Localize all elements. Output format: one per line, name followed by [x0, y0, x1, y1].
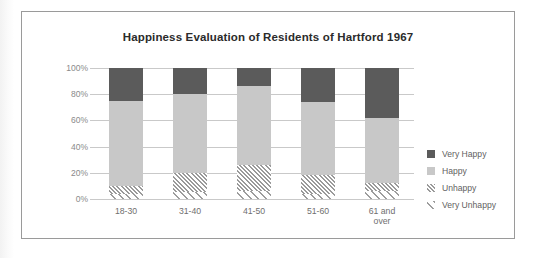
bar-segment-very-happy — [109, 68, 143, 101]
legend-label: Very Unhappy — [442, 200, 496, 210]
x-axis-tick-label: 41-50 — [227, 206, 281, 216]
y-axis-tick-label: 100% — [66, 63, 88, 73]
y-axis-tick-label: 60% — [71, 115, 88, 125]
bar-stack: 41-50 — [237, 68, 271, 199]
legend-swatch-icon — [427, 184, 435, 192]
bar-segment-happy — [237, 86, 271, 165]
bar-stack: 51-60 — [301, 68, 335, 199]
legend-label: Unhappy — [442, 183, 476, 193]
bar-segment-unhappy — [109, 186, 143, 194]
legend-label: Happy — [442, 166, 467, 176]
bar-segment-very-unhappy — [301, 194, 335, 199]
page-gutter-shadow — [0, 0, 14, 258]
y-axis-tick-label: 80% — [71, 89, 88, 99]
y-axis-tick-mark — [90, 199, 94, 200]
bar-segment-happy — [173, 94, 207, 173]
bar-segment-unhappy — [365, 183, 399, 191]
bar-segment-very-happy — [173, 68, 207, 94]
bar-stack: 61 andover — [365, 68, 399, 199]
legend-swatch-icon — [427, 201, 435, 209]
y-axis-tick-mark — [90, 120, 94, 121]
bar-segment-very-happy — [365, 68, 399, 118]
y-axis-tick-mark — [90, 173, 94, 174]
bar-segment-happy — [365, 118, 399, 184]
y-axis-tick-label: 0% — [76, 194, 88, 204]
bar-segment-very-happy — [301, 68, 335, 102]
bar-segment-happy — [301, 102, 335, 175]
bar-segment-very-happy — [237, 68, 271, 86]
bar-stack: 18-30 — [109, 68, 143, 199]
legend-item: Happy — [427, 162, 496, 179]
chart-legend: Very HappyHappyUnhappyVery Unhappy — [427, 145, 496, 213]
legend-item: Very Happy — [427, 145, 496, 162]
bar-segment-unhappy — [301, 175, 335, 193]
x-axis-tick-label: 61 andover — [355, 206, 409, 226]
bar-stack: 31-40 — [173, 68, 207, 199]
bar-segment-unhappy — [237, 165, 271, 191]
legend-item: Very Unhappy — [427, 196, 496, 213]
y-axis-tick-mark — [90, 147, 94, 148]
gridline — [94, 199, 414, 200]
y-axis-tick-mark — [90, 94, 94, 95]
plot-area: 100%80%60%40%20%0%18-3031-4041-5051-6061… — [94, 68, 414, 199]
y-axis-tick-label: 20% — [71, 168, 88, 178]
y-axis-tick-label: 40% — [71, 142, 88, 152]
chart-title: Happiness Evaluation of Residents of Har… — [22, 31, 514, 43]
legend-swatch-icon — [427, 167, 435, 175]
legend-swatch-icon — [427, 150, 435, 158]
x-axis-tick-label: 31-40 — [163, 206, 217, 216]
bar-segment-very-unhappy — [365, 191, 399, 199]
chart-frame: Happiness Evaluation of Residents of Har… — [21, 11, 515, 239]
x-axis-tick-label: 18-30 — [99, 206, 153, 216]
bar-segment-unhappy — [173, 173, 207, 193]
legend-item: Unhappy — [427, 179, 496, 196]
bar-segment-very-unhappy — [237, 191, 271, 199]
bar-segment-very-unhappy — [173, 192, 207, 199]
y-axis-tick-mark — [90, 68, 94, 69]
chart-page: Happiness Evaluation of Residents of Har… — [0, 0, 538, 258]
bar-segment-very-unhappy — [109, 194, 143, 199]
bar-segment-happy — [109, 101, 143, 186]
legend-label: Very Happy — [442, 149, 486, 159]
x-axis-tick-label: 51-60 — [291, 206, 345, 216]
